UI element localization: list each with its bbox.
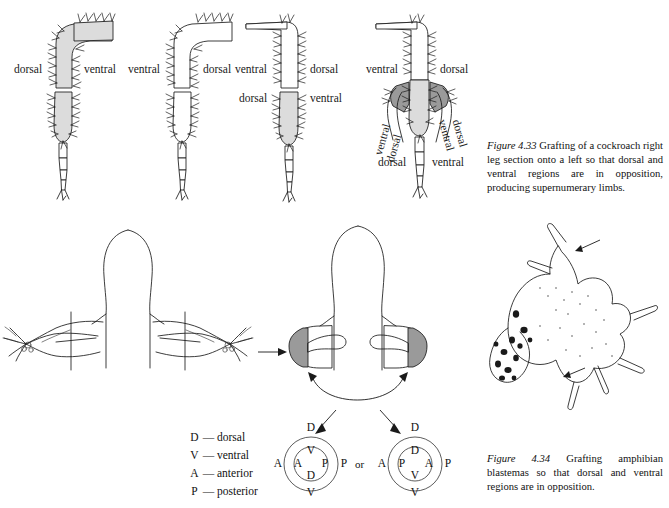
amphibian-donor-host	[3, 230, 253, 370]
leg3-label-ventral-upper: ventral	[235, 64, 267, 76]
circle-left-outer-bottom: V	[305, 487, 317, 499]
caption-figure-433: Figure 4.33 Grafting of a cockroach righ…	[487, 139, 663, 195]
leg3-label-dorsal-lower: dorsal	[239, 93, 267, 105]
key-dash-2: —	[200, 464, 217, 482]
key-letter-d: D	[189, 428, 200, 446]
leg-panel-4	[376, 14, 457, 198]
key-letter-p: P	[189, 482, 200, 500]
leg2-label-ventral: ventral	[128, 64, 160, 76]
circle-left-outer-right: P	[338, 458, 350, 470]
circle-left-inner-top: V	[305, 445, 317, 457]
key-letter-v: V	[189, 446, 200, 464]
circle-left-inner-left: A	[292, 458, 304, 470]
caption-433-number: Figure 4.33	[487, 140, 537, 151]
key-term-dorsal: dorsal	[217, 431, 245, 443]
axis-key: D—dorsal V—ventral A—anterior P—posterio…	[189, 428, 258, 501]
key-row-ventral: V—ventral	[189, 446, 258, 464]
circle-right-outer-right: P	[442, 458, 454, 470]
key-term-ventral: ventral	[217, 449, 249, 461]
supernumerary-limb-drawing	[490, 224, 658, 410]
leg4-label-dorsal-bottom: dorsal	[378, 157, 406, 169]
leg4-label-dorsal-upper: dorsal	[440, 64, 468, 76]
figure-page: dorsal ventral ventral dorsal ventral do…	[0, 0, 669, 508]
key-letter-a: A	[189, 464, 200, 482]
key-term-posterior: posterior	[217, 485, 258, 497]
leg1-label-dorsal: dorsal	[14, 64, 42, 76]
circle-right-inner-left: P	[396, 458, 408, 470]
circle-right-inner-top: D	[409, 445, 421, 457]
key-row-posterior: P—posterior	[189, 482, 258, 500]
circle-right-outer-top: D	[409, 422, 421, 434]
leg3-label-dorsal-upper: dorsal	[310, 64, 338, 76]
leg1-label-ventral: ventral	[84, 64, 116, 76]
arrow-to-graft	[258, 348, 287, 356]
key-dash-1: —	[200, 446, 217, 464]
circle-right-outer-bottom: V	[409, 487, 421, 499]
circle-right-outer-left: A	[376, 458, 388, 470]
circle-right-inner-bottom: V	[409, 470, 421, 482]
caption-figure-434: Figure 4.34 Grafting amphibian blastemas…	[487, 452, 663, 494]
key-row-anterior: A—anterior	[189, 464, 258, 482]
leg4-label-ventral-upper: ventral	[366, 64, 398, 76]
key-row-dorsal: D—dorsal	[189, 428, 258, 446]
key-dash-3: —	[200, 482, 217, 500]
circles-or-connector: or	[355, 458, 364, 470]
leg-panel-3	[246, 14, 306, 202]
leg-panel-2	[166, 13, 233, 200]
arrows-to-axis-circles	[315, 410, 401, 434]
leg4-label-ventral-bottom: ventral	[432, 157, 464, 169]
amphibian-grafted	[289, 226, 427, 400]
circle-left-inner-right: P	[319, 458, 331, 470]
key-term-anterior: anterior	[217, 467, 253, 479]
leg2-label-dorsal: dorsal	[203, 64, 231, 76]
leg3-label-ventral-lower: ventral	[310, 93, 342, 105]
leg-panel-1	[47, 13, 115, 200]
circle-left-outer-left: A	[272, 458, 284, 470]
circle-left-outer-top: D	[305, 422, 317, 434]
caption-434-number: Figure 4.34	[487, 453, 550, 464]
cockroach-leg-panels	[0, 0, 480, 215]
key-dash-0: —	[200, 428, 217, 446]
circle-right-inner-right: A	[423, 458, 435, 470]
circle-left-inner-bottom: D	[305, 470, 317, 482]
